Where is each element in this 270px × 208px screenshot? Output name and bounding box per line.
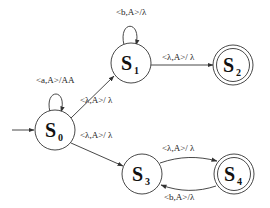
label-s0-s1: <λ,A>/ λ: [80, 95, 113, 105]
label-s3-s4: <λ,A>/ λ: [162, 143, 195, 153]
state-s1: S 1: [111, 43, 151, 83]
label-s1-s1: <b,A>/λ: [116, 7, 147, 17]
state-s3: S 3: [122, 154, 162, 194]
label-s0-s0: <a,A>/AA: [36, 75, 75, 85]
state-s4-accepting: S 4: [214, 154, 254, 194]
label-s4-s3: <b,A>/λ: [164, 192, 195, 202]
svg-text:S: S: [45, 119, 56, 141]
svg-text:2: 2: [236, 67, 241, 78]
label-s1-s2: <λ,A>/ λ: [162, 52, 195, 62]
label-s0-s3: <λ,A>/ λ: [80, 130, 113, 140]
edge-s0-s3: [71, 143, 123, 166]
edge-s1-s1: [123, 26, 137, 45]
state-s2-accepting: S 2: [213, 45, 253, 85]
svg-text:3: 3: [145, 176, 150, 187]
svg-text:S: S: [132, 163, 143, 185]
svg-text:0: 0: [58, 132, 63, 143]
automaton-diagram: <a,A>/AA <λ,A>/ λ <λ,A>/ λ <b,A>/λ <λ,A>…: [0, 0, 270, 208]
svg-text:S: S: [121, 52, 132, 74]
state-s0: S 0: [35, 110, 75, 150]
edge-s0-s0: [49, 94, 62, 112]
svg-text:S: S: [223, 54, 234, 76]
svg-text:4: 4: [237, 176, 242, 187]
edge-s3-s4: [160, 157, 217, 163]
edge-s4-s3: [161, 185, 216, 190]
svg-text:1: 1: [134, 65, 139, 76]
svg-text:S: S: [224, 163, 235, 185]
